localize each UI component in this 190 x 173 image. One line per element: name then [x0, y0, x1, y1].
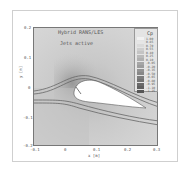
- y-tick: 0.1: [24, 55, 31, 60]
- x-tick: -0.1: [30, 147, 40, 152]
- y-tick: 0: [28, 85, 30, 90]
- x-axis-label: x [m]: [88, 153, 100, 158]
- x-tick: 0.3: [153, 147, 160, 152]
- chart-title: Hybrid RANS/LES: [58, 29, 103, 35]
- y-tick: -0.1: [23, 115, 33, 120]
- legend: Cp 1.000.850.700.550.400.250.10-0.05-0.2…: [134, 28, 158, 92]
- y-tick: 0.2: [24, 25, 31, 30]
- x-tick: 0.2: [124, 147, 131, 152]
- legend-value: -1.25: [146, 89, 155, 93]
- y-axis-label: y [m]: [18, 66, 23, 78]
- legend-title: Cp: [147, 30, 153, 36]
- legend-swatch: [137, 90, 144, 93]
- x-tick: 0.1: [93, 147, 100, 152]
- chart-subtitle: Jets active: [60, 40, 93, 46]
- legend-entry: -1.25: [137, 90, 157, 93]
- x-tick: 0: [64, 147, 66, 152]
